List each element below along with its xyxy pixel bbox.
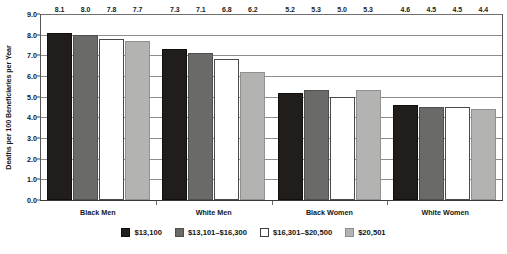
y-axis-tick-label: 4.0 [27,113,37,122]
bar-value-label: 4.6 [401,6,411,13]
x-axis-group-separator [156,201,157,205]
bar-value-label: 4.4 [479,6,489,13]
bar-value-label: 6.2 [248,6,258,13]
legend-item[interactable]: $16,301–$20,500 [260,228,332,237]
bar[interactable]: 7.8 [99,39,124,200]
legend-item[interactable]: $20,501 [345,228,385,237]
y-axis-tick-label: 0.0 [27,196,37,205]
plot-area: 8.18.07.87.77.37.16.86.25.25.35.05.34.64… [40,14,503,201]
legend-item[interactable]: $13,101–$16,300 [175,228,247,237]
bar[interactable]: 4.5 [445,107,470,200]
y-axis-title-text: Deaths per 100 Beneficiaries per Year [4,45,13,169]
bar-value-label: 5.2 [285,6,295,13]
bar[interactable]: 4.5 [419,107,444,200]
y-axis-tick-label: 1.0 [27,175,37,184]
legend-swatch [260,228,269,237]
x-axis-category-labels: Black MenWhite MenBlack WomenWhite Women [40,201,503,219]
y-axis-tick-labels: 0.01.02.03.04.05.06.07.08.09.0 [16,14,40,200]
bar-value-label: 4.5 [427,6,437,13]
bar-slot: 5.0 [330,14,355,200]
bar[interactable]: 7.7 [125,41,150,200]
bar-group: 7.37.16.86.2 [156,14,271,200]
bar-slot: 4.4 [471,14,496,200]
y-axis-tick-label: 2.0 [27,154,37,163]
bar-slot: 5.3 [356,14,381,200]
legend-label: $13,101–$16,300 [188,228,247,237]
x-axis-category-label: Black Men [40,201,156,219]
legend-item[interactable]: $13,100 [121,228,161,237]
bars-layer: 8.18.07.87.77.37.16.86.25.25.35.05.34.64… [41,14,502,200]
bar[interactable]: 6.8 [214,59,239,200]
bar[interactable]: 8.1 [47,33,72,200]
bar[interactable]: 5.3 [304,90,329,200]
y-axis-tick-label: 8.0 [27,30,37,39]
y-axis-title: Deaths per 100 Beneficiaries per Year [0,0,16,215]
bar-value-label: 7.1 [196,6,206,13]
bar-group: 5.25.35.05.3 [272,14,387,200]
bar-chart: Deaths per 100 Beneficiaries per Year 0.… [0,0,507,254]
y-axis-tick-label: 3.0 [27,134,37,143]
bar-value-label: 7.3 [170,6,180,13]
legend-swatch [345,228,354,237]
bar-slot: 6.2 [240,14,265,200]
bar-value-label: 5.3 [363,6,373,13]
x-axis-category-label: White Men [156,201,272,219]
x-axis-group-separator [272,201,273,205]
bar-value-label: 5.3 [311,6,321,13]
legend-label: $20,501 [358,228,385,237]
bar-value-label: 5.0 [337,6,347,13]
bar-value-label: 4.5 [453,6,463,13]
bar-slot: 7.7 [125,14,150,200]
bar[interactable]: 4.6 [393,105,418,200]
bar[interactable]: 5.2 [278,93,303,200]
bar-value-label: 7.7 [133,6,143,13]
x-axis-category-label: Black Women [272,201,388,219]
bar[interactable]: 5.0 [330,97,355,200]
y-axis-tick-label: 7.0 [27,51,37,60]
bar-slot: 7.1 [188,14,213,200]
bar-slot: 5.3 [304,14,329,200]
bar[interactable]: 8.0 [73,35,98,200]
y-axis-tick-label: 9.0 [27,10,37,19]
bar-slot: 7.8 [99,14,124,200]
bar-value-label: 6.8 [222,6,232,13]
bar-slot: 4.6 [393,14,418,200]
bar-group: 8.18.07.87.7 [41,14,156,200]
bar-slot: 7.3 [162,14,187,200]
y-axis-tick-label: 6.0 [27,72,37,81]
bar-slot: 8.0 [73,14,98,200]
bar-value-label: 8.1 [55,6,65,13]
legend-swatch [121,228,130,237]
bar[interactable]: 4.4 [471,109,496,200]
bar-slot: 4.5 [419,14,444,200]
bar[interactable]: 7.1 [188,53,213,200]
bar-slot: 6.8 [214,14,239,200]
y-axis-tick-label: 5.0 [27,92,37,101]
bar-slot: 4.5 [445,14,470,200]
bar[interactable]: 6.2 [240,72,265,200]
x-axis-group-separator [387,201,388,205]
bar[interactable]: 7.3 [162,49,187,200]
legend-label: $13,100 [134,228,161,237]
bar-slot: 8.1 [47,14,72,200]
bar[interactable]: 5.3 [356,90,381,200]
legend-label: $16,301–$20,500 [273,228,332,237]
legend-swatch [175,228,184,237]
x-axis-category-label: White Women [387,201,503,219]
bar-group: 4.64.54.54.4 [387,14,502,200]
chart-legend: $13,100$13,101–$16,300$16,301–$20,500$20… [0,228,507,237]
bar-value-label: 7.8 [107,6,117,13]
bar-value-label: 8.0 [81,6,91,13]
bar-slot: 5.2 [278,14,303,200]
